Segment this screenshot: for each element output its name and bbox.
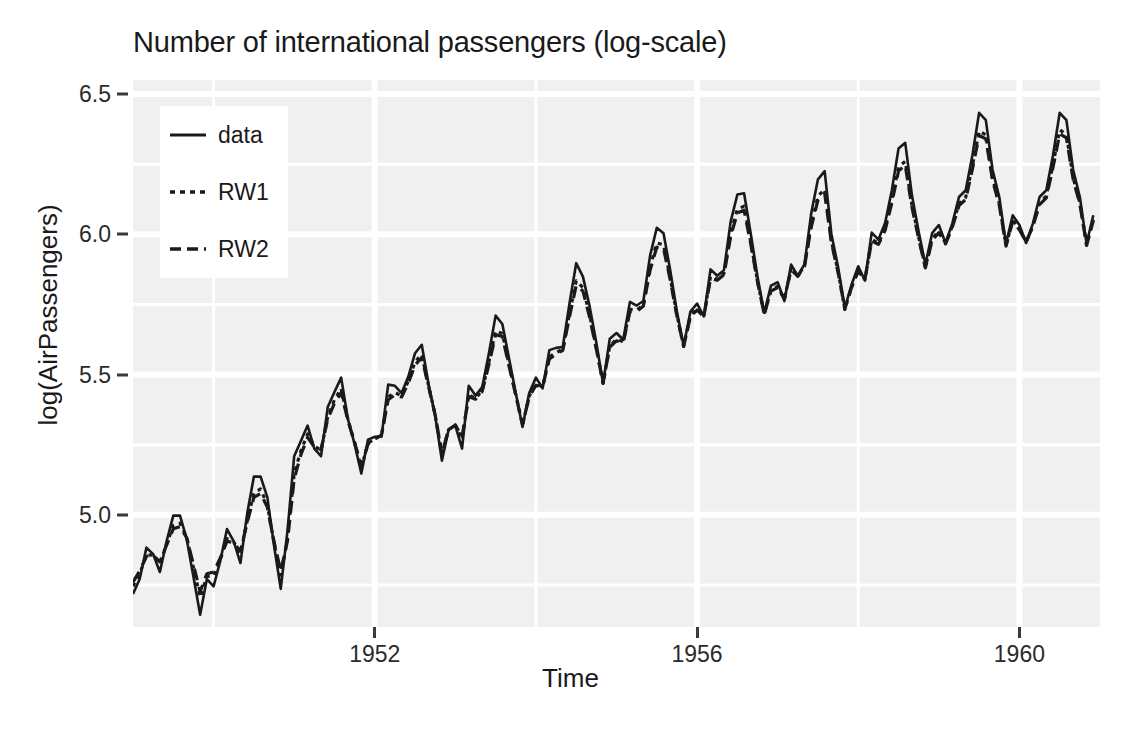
y-tick-mark [117,233,128,236]
legend-key-dashed-icon [160,226,216,272]
x-axis-title: Time [0,663,1141,694]
y-tick-label: 6.0 [79,221,111,248]
y-tick-mark [117,513,128,516]
legend-item-rw1[interactable]: RW1 [160,169,288,215]
legend-label-rw1: RW1 [218,179,269,206]
x-tick-label: 1960 [994,641,1045,668]
chart-page: Number of international passengers (log-… [0,0,1141,741]
legend: data RW1 RW2 [160,106,288,278]
x-tick-label: 1956 [671,641,722,668]
y-tick-label: 6.5 [79,81,111,108]
y-tick-label: 5.5 [79,361,111,388]
y-tick-mark [117,373,128,376]
x-tick-label: 1952 [349,641,400,668]
legend-key-dotted-icon [160,169,216,215]
legend-item-rw2[interactable]: RW2 [160,226,288,272]
y-tick-label: 5.0 [79,501,111,528]
x-tick-mark [1018,627,1021,638]
y-tick-mark [117,93,128,96]
y-axis-title: log(AirPassengers) [33,206,64,426]
legend-key-solid-icon [160,112,216,158]
page-title: Number of international passengers (log-… [133,26,727,59]
legend-item-data[interactable]: data [160,112,288,158]
x-tick-mark [696,627,699,638]
legend-label-rw2: RW2 [218,236,269,263]
x-tick-mark [373,627,376,638]
legend-label-data: data [218,122,263,149]
